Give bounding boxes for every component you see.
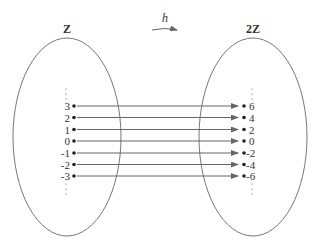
mapping-row: 24: [65, 112, 256, 124]
domain-element-label: 0: [65, 135, 71, 147]
mapping-row: 36: [65, 100, 256, 112]
domain-element-label: 1: [65, 124, 71, 136]
domain-point: [72, 151, 76, 155]
codomain-element-label: 4: [249, 112, 255, 124]
codomain-point: [242, 139, 246, 143]
domain-point: [72, 116, 76, 120]
domain-element-label: -2: [61, 159, 70, 171]
mapping-row: 00: [65, 135, 256, 147]
function-arrow: [152, 29, 177, 31]
mapping-row: -1-2: [61, 147, 255, 159]
codomain-top-ellipsis: [251, 88, 252, 99]
codomain-set-label: 2Z: [246, 22, 260, 36]
domain-set-label: Z: [63, 22, 71, 36]
domain-element-label: -1: [61, 147, 70, 159]
codomain-point: [242, 128, 246, 132]
domain-bottom-ellipsis: [65, 183, 66, 194]
domain-point: [72, 139, 76, 143]
codomain-element-label: -6: [246, 170, 256, 182]
domain-point: [72, 174, 76, 178]
mapping-row: -2-4: [61, 159, 256, 171]
codomain-element-label: -2: [246, 147, 255, 159]
codomain-element-label: 6: [249, 100, 255, 112]
domain-point: [72, 104, 76, 108]
domain-element-label: 2: [65, 112, 71, 124]
codomain-element-label: 0: [249, 135, 255, 147]
codomain-point: [242, 116, 246, 120]
domain-element-label: 3: [65, 100, 71, 112]
domain-top-ellipsis: [65, 88, 66, 99]
codomain-bottom-ellipsis: [251, 183, 252, 194]
function-label: h: [162, 11, 168, 25]
domain-element-label: -3: [61, 170, 71, 182]
codomain-point: [242, 104, 246, 108]
domain-point: [72, 163, 76, 167]
codomain-element-label: 2: [249, 124, 255, 136]
mapping-diagram: h Z 2Z 36241200-1-2-2-4-3-6: [0, 0, 319, 249]
domain-point: [72, 128, 76, 132]
mapping-row: -3-6: [61, 170, 256, 182]
mapping-row: 12: [65, 124, 255, 136]
codomain-element-label: -4: [246, 159, 256, 171]
